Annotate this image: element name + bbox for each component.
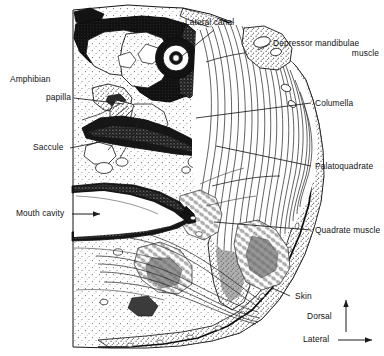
anatomical-figure: Lateral canal Depressor mandibulae muscl…	[0, 0, 384, 356]
dorsal-arrow-icon	[343, 300, 348, 332]
label-quadrate-muscle: Quadrate muscle	[315, 225, 380, 236]
label-columella: Columella	[315, 98, 353, 109]
lateral-arrow-icon	[338, 337, 372, 342]
label-depressor-mandibulae-line1: Depressor mandibulae	[273, 38, 359, 49]
label-skin: Skin	[295, 291, 312, 302]
label-dorsal: Dorsal	[307, 311, 332, 322]
lateral-canal-ring	[156, 38, 197, 79]
label-amphibian-papilla-line1: Amphibian	[10, 74, 50, 85]
label-lateral-canal: Lateral canal	[185, 17, 234, 28]
label-mouth-cavity: Mouth cavity	[16, 208, 64, 219]
label-lateral: Lateral	[303, 334, 329, 345]
label-amphibian-papilla-line2: papilla	[10, 92, 71, 103]
label-palatoquadrate: Palatoquadrate	[315, 161, 373, 172]
label-depressor-mandibulae-line2: muscle	[273, 48, 379, 59]
label-saccule: Saccule	[33, 142, 64, 153]
